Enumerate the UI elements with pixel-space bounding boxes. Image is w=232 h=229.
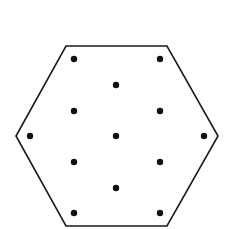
dot xyxy=(157,56,163,62)
dot xyxy=(113,185,119,191)
dot xyxy=(157,108,163,114)
dot xyxy=(71,108,77,114)
dot xyxy=(113,82,119,88)
background xyxy=(0,0,232,229)
hexagon-dot-diagram xyxy=(0,0,232,229)
dot xyxy=(71,56,77,62)
dot xyxy=(157,210,163,216)
dot xyxy=(201,133,207,139)
dot xyxy=(71,210,77,216)
dot xyxy=(27,133,33,139)
dot xyxy=(113,133,119,139)
dot xyxy=(71,159,77,165)
dot xyxy=(157,159,163,165)
